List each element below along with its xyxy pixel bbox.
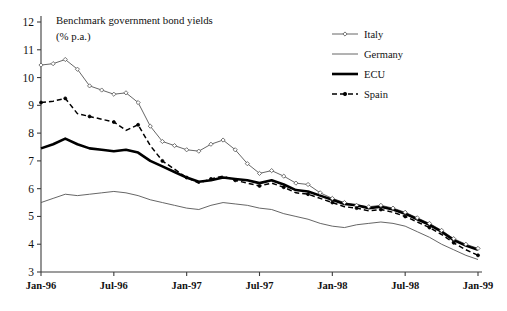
bond-yields-line-chart: 3456789101112Jan-96Jul-96Jan-97Jul-97Jan… (0, 0, 507, 311)
y-axis-tick-label: 6 (28, 183, 34, 195)
x-axis-tick-label: Jan-98 (317, 280, 347, 291)
data-point-spain (137, 123, 140, 126)
data-point-italy (197, 149, 201, 153)
y-axis-tick-label: 7 (28, 155, 34, 167)
x-axis-tick-label: Jan-99 (463, 280, 493, 291)
x-axis-tick-label: Jul-96 (100, 280, 128, 291)
data-point-spain (88, 115, 91, 118)
data-point-spain (185, 176, 188, 179)
y-axis-tick-label: 5 (28, 210, 34, 222)
series-line-ecu (41, 139, 478, 250)
data-point-italy (112, 92, 116, 96)
y-axis-tick-label: 10 (23, 72, 35, 84)
legend-label-ecu[interactable]: ECU (364, 69, 385, 80)
chart-title: Benchmark government bond yields (56, 14, 213, 26)
data-point-italy (100, 88, 104, 92)
data-point-spain (112, 121, 115, 124)
y-axis-tick-label: 12 (23, 16, 35, 28)
data-point-spain (428, 226, 431, 229)
data-point-italy (294, 181, 298, 185)
y-axis-tick-label: 3 (28, 266, 34, 278)
data-point-spain (209, 177, 212, 180)
data-point-italy (172, 144, 176, 148)
legend-marker-spain (343, 92, 346, 95)
data-point-spain (307, 193, 310, 196)
chart-subtitle: (% p.a.) (56, 30, 91, 43)
data-point-italy (209, 142, 213, 146)
data-point-spain (234, 179, 237, 182)
data-point-spain (331, 201, 334, 204)
series-line-spain (41, 98, 478, 255)
data-point-italy (185, 148, 189, 152)
data-point-italy (39, 63, 43, 67)
data-point-italy (51, 62, 55, 66)
chart-container: 3456789101112Jan-96Jul-96Jan-97Jul-97Jan… (0, 0, 507, 311)
data-point-spain (258, 184, 261, 187)
x-axis-tick-label: Jul-98 (391, 280, 419, 291)
legend-label-germany[interactable]: Germany (364, 49, 404, 60)
data-point-spain (355, 207, 358, 210)
series-line-germany (41, 191, 478, 259)
data-point-spain (40, 101, 43, 104)
data-point-italy (270, 169, 274, 173)
data-point-spain (64, 97, 67, 100)
x-axis-tick-label: Jul-97 (245, 280, 273, 291)
data-point-spain (477, 254, 480, 257)
x-axis-tick-label: Jan-96 (26, 280, 56, 291)
data-point-spain (452, 241, 455, 244)
y-axis-tick-label: 8 (28, 127, 34, 139)
y-axis-tick-label: 11 (23, 44, 34, 56)
y-axis-tick-label: 9 (28, 99, 34, 111)
data-point-spain (161, 159, 164, 162)
data-point-spain (379, 208, 382, 211)
data-point-spain (282, 186, 285, 189)
legend-label-italy[interactable]: Italy (364, 29, 384, 40)
legend-label-spain[interactable]: Spain (364, 89, 389, 100)
x-axis-tick-label: Jan-97 (171, 280, 201, 291)
data-point-italy (282, 174, 286, 178)
data-point-spain (404, 215, 407, 218)
y-axis-tick-label: 4 (28, 238, 34, 250)
legend-marker-italy (343, 32, 347, 36)
